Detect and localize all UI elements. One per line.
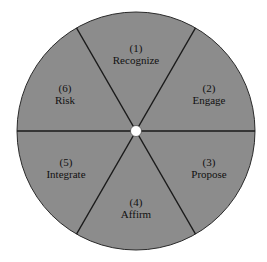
segment-label: Recognize (91, 54, 181, 66)
segment-number: (2) (164, 82, 254, 94)
segment-label: Integrate (21, 168, 111, 180)
segment-4-affirm: (4) Affirm (91, 196, 181, 220)
segment-1-recognize: (1) Recognize (91, 42, 181, 66)
segment-2-engage: (2) Engage (164, 82, 254, 106)
segment-label: Engage (164, 94, 254, 106)
segment-3-propose: (3) Propose (164, 156, 254, 180)
segment-number: (1) (91, 42, 181, 54)
segment-5-integrate: (5) Integrate (21, 156, 111, 180)
segment-number: (3) (164, 156, 254, 168)
segment-6-risk: (6) Risk (20, 82, 110, 106)
segment-number: (6) (20, 82, 110, 94)
segment-label: Affirm (91, 208, 181, 220)
center-hole (131, 126, 142, 137)
segment-label: Propose (164, 168, 254, 180)
segment-number: (4) (91, 196, 181, 208)
process-wheel (0, 0, 267, 262)
segment-label: Risk (20, 94, 110, 106)
segment-number: (5) (21, 156, 111, 168)
